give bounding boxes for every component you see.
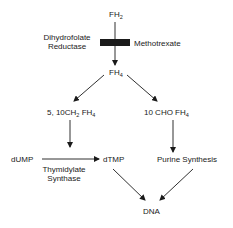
node-dtmp: dTMP [103, 155, 124, 164]
enzyme-thymidylate-synthase: Thymidylate Synthase [39, 165, 89, 183]
methylene-sub2: 4 [92, 112, 95, 118]
pathway-arrows [0, 0, 233, 228]
fh2-base: FH [109, 10, 120, 19]
node-methylene-fh4: 5, 10CH2 FH4 [47, 108, 95, 117]
enzyme-dhfr: Dihydrofolate Reductase [40, 33, 94, 51]
methotrexate-block-bar [100, 39, 130, 46]
dhfr-line1: Dihydrofolate [40, 33, 94, 42]
ts-line2: Synthase [39, 174, 89, 183]
node-purine-synthesis: Purine Synthesis [157, 155, 217, 164]
node-formyl-fh4: 10 CHO FH4 [144, 108, 189, 117]
arrow-fh4-formyl [127, 75, 157, 101]
node-fh2: FH2 [109, 10, 123, 19]
arrow-fh4-methylene [74, 75, 104, 101]
node-dna: DNA [143, 207, 160, 216]
fh2-sub: 2 [120, 14, 123, 20]
arrow-purine-dna [160, 169, 193, 200]
methylene-pre: 5, 10CH [47, 108, 76, 117]
fh4-base: FH [109, 68, 120, 77]
fh4-sub: 4 [120, 72, 123, 78]
inhibitor-methotrexate: Methotrexate [134, 39, 181, 48]
node-dump: dUMP [11, 155, 33, 164]
formyl-sub: 4 [186, 112, 189, 118]
arrow-dtmp-dna [113, 169, 145, 200]
ts-line1: Thymidylate [39, 165, 89, 174]
dhfr-line2: Reductase [40, 42, 94, 51]
formyl-pre: 10 CHO FH [144, 108, 186, 117]
methylene-mid: FH [79, 108, 92, 117]
node-fh4: FH4 [109, 68, 123, 77]
